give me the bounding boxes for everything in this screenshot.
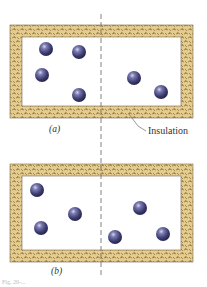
panel-a-container xyxy=(10,25,193,118)
gas-molecule-icon xyxy=(133,201,147,215)
gas-molecule-icon xyxy=(39,42,53,56)
gas-molecule-icon xyxy=(72,45,86,59)
gas-molecule-icon xyxy=(72,88,86,102)
gas-molecule-icon xyxy=(127,71,141,85)
gas-molecule-icon xyxy=(154,85,168,99)
panel-a-label: (a) xyxy=(49,124,60,134)
panel-b-container xyxy=(10,164,193,262)
gas-molecule-icon xyxy=(35,68,49,82)
gas-molecule-icon xyxy=(34,221,48,235)
gas-molecule-icon xyxy=(108,230,122,244)
panel-b-label: (b) xyxy=(51,266,62,276)
diagram-canvas xyxy=(0,0,207,287)
insulation-label: Insulation xyxy=(148,125,188,136)
gas-molecule-icon xyxy=(156,227,170,241)
gas-molecule-icon xyxy=(30,183,44,197)
figure-caption: Fig. 20-... xyxy=(2,279,26,285)
gas-molecule-icon xyxy=(68,207,82,221)
chamber-interior xyxy=(22,176,181,250)
